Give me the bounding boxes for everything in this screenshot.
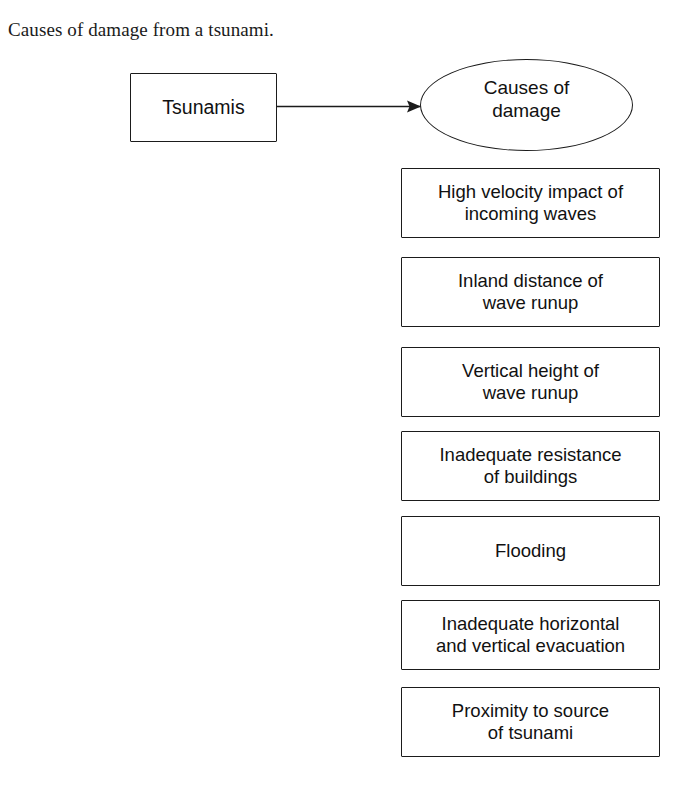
node-causes-of-damage-label: Causes of damage — [478, 76, 576, 122]
cause-box-3[interactable]: Vertical height of wave runup — [401, 347, 660, 417]
cause-box-3-label: Vertical height of wave runup — [456, 360, 605, 404]
cause-box-1-label: High velocity impact of incoming waves — [432, 181, 629, 225]
cause-box-6[interactable]: Inadequate horizontal and vertical evacu… — [401, 600, 660, 670]
arrowhead-icon — [407, 101, 421, 113]
cause-box-5-label: Flooding — [489, 540, 572, 562]
cause-box-2-label: Inland distance of wave runup — [452, 270, 609, 314]
cause-box-7-label: Proximity to source of tsunami — [446, 700, 615, 744]
cause-box-1[interactable]: High velocity impact of incoming waves — [401, 168, 660, 238]
cause-box-6-label: Inadequate horizontal and vertical evacu… — [430, 613, 631, 657]
flow-diagram: Tsunamis Causes of damage High velocity … — [0, 0, 695, 787]
cause-box-2[interactable]: Inland distance of wave runup — [401, 257, 660, 327]
node-tsunamis[interactable]: Tsunamis — [130, 73, 277, 142]
node-tsunamis-label: Tsunamis — [156, 96, 250, 119]
cause-box-4-label: Inadequate resistance of buildings — [433, 444, 627, 488]
cause-box-5[interactable]: Flooding — [401, 516, 660, 586]
cause-box-7[interactable]: Proximity to source of tsunami — [401, 687, 660, 757]
node-causes-of-damage[interactable]: Causes of damage — [420, 59, 633, 151]
cause-box-4[interactable]: Inadequate resistance of buildings — [401, 431, 660, 501]
